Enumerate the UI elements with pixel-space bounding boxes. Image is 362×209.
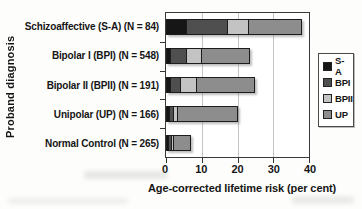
bar-row xyxy=(166,71,309,100)
legend-box: S-ABPIBPIIUP xyxy=(318,53,354,127)
y-tick-mark xyxy=(160,128,165,129)
x-tick-label: 10 xyxy=(195,163,207,175)
category-label: Schizoaffective (S-A) (N = 84) xyxy=(18,12,162,41)
bar-segment-bpii xyxy=(186,48,201,64)
legend-label: BPI xyxy=(335,77,350,88)
bar-segment-bpii xyxy=(180,77,197,93)
bar-segment-up xyxy=(196,77,255,93)
bar-row xyxy=(166,99,309,128)
bar-segment-up xyxy=(177,106,237,122)
bar-row xyxy=(166,13,309,42)
x-tick-label: 20 xyxy=(231,163,243,175)
stacked-bar xyxy=(166,135,191,151)
figure-stacked-bar-chart: Proband diagnosis Schizoaffective (S-A) … xyxy=(0,0,362,209)
legend-swatch-up xyxy=(323,110,332,119)
category-axis-labels: Schizoaffective (S-A) (N = 84)Bipolar I … xyxy=(18,12,162,158)
bar-row xyxy=(166,128,309,157)
x-tick-label: 40 xyxy=(304,163,316,175)
bar-segment-up xyxy=(201,48,250,64)
bar-segment-up xyxy=(248,19,302,35)
category-label: Normal Control (N = 265) xyxy=(18,129,162,158)
plot-area xyxy=(165,12,310,158)
x-tick-label: 30 xyxy=(268,163,280,175)
x-axis-title: Age-corrected lifetime risk (per cent) xyxy=(148,182,328,194)
legend-swatch-bpii xyxy=(323,94,332,103)
legend-swatch-sa xyxy=(323,62,332,71)
legend-label: UP xyxy=(335,109,348,120)
bar-row xyxy=(166,42,309,71)
legend-item: S-A xyxy=(323,58,350,74)
legend-item: BPI xyxy=(323,74,350,90)
print-bleedthrough-artifact xyxy=(292,196,354,204)
stacked-bar xyxy=(166,77,255,93)
category-label: Unipolar (UP) (N = 166) xyxy=(18,100,162,129)
bar-segment-up xyxy=(173,135,191,151)
x-axis-tick-labels: 010203040 xyxy=(165,163,310,176)
bar-segment-bpi xyxy=(186,19,228,35)
category-label: Bipolar I (BPI) (N = 548) xyxy=(18,41,162,70)
bar-segment-bpii xyxy=(227,19,250,35)
bars-container xyxy=(166,13,309,157)
category-label: Bipolar II (BPII) (N = 191) xyxy=(18,70,162,99)
legend-item: BPII xyxy=(323,90,350,106)
y-axis-title: Proband diagnosis xyxy=(3,14,17,160)
print-bleedthrough-artifact xyxy=(8,198,128,204)
print-bleedthrough-artifact xyxy=(84,171,168,179)
legend-item: UP xyxy=(323,106,350,122)
stacked-bar xyxy=(166,106,238,122)
y-tick-mark xyxy=(160,99,165,100)
legend-swatch-bpi xyxy=(323,78,332,87)
legend-label: S-A xyxy=(335,55,350,77)
bar-segment-sa xyxy=(166,19,187,35)
y-tick-mark xyxy=(160,42,165,43)
bar-segment-bpi xyxy=(170,48,187,64)
legend-label: BPII xyxy=(335,93,353,104)
y-tick-mark xyxy=(160,71,165,72)
stacked-bar xyxy=(166,48,250,64)
stacked-bar xyxy=(166,19,302,35)
